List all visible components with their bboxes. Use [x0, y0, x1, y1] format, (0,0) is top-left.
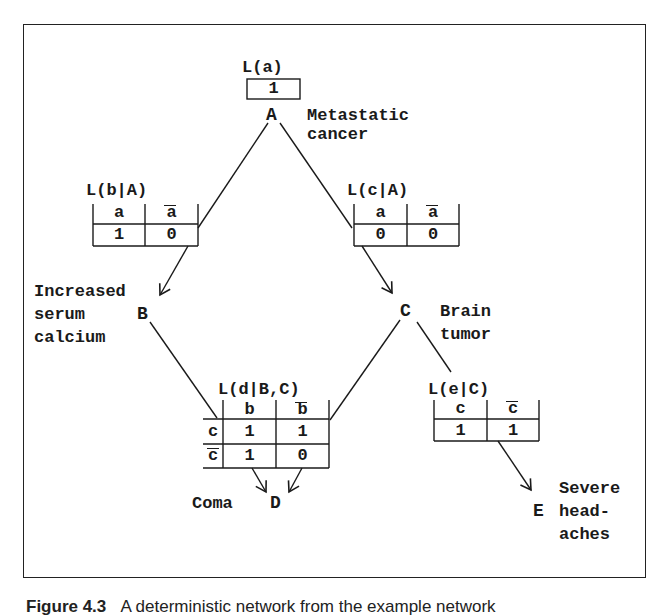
LdBC-r1-c0: 1	[223, 445, 276, 467]
LdBC-r1-c1: 0	[276, 445, 329, 467]
edge-d-arrow-left	[252, 468, 266, 492]
LdBC-row-header-c: c	[203, 421, 223, 443]
node-A-label-line2: cancer	[307, 125, 368, 144]
LeC-value-0: 1	[434, 420, 487, 442]
LdBC-title: L(d|B,C)	[218, 380, 300, 399]
edge-A-B-upper	[198, 123, 268, 228]
LdBC-negation-bar-b	[295, 402, 307, 403]
figure-caption: Figure 4.3 A deterministic network from …	[26, 597, 496, 615]
edge-A-C-arrow	[362, 246, 392, 293]
edge-e-arrow	[498, 441, 531, 490]
LcA-value-1: 0	[407, 224, 459, 246]
LcA-header-a: a	[354, 202, 407, 224]
node-E-label-line2: head-	[559, 502, 610, 521]
node-A: A	[266, 106, 277, 125]
edge-A-B-arrow	[160, 246, 188, 295]
LcA-value-0: 0	[354, 224, 407, 246]
figure-caption-text: A deterministic network from the example…	[120, 597, 495, 615]
LbA-value-1: 0	[145, 224, 198, 246]
node-A-label-line1: Metastatic	[307, 106, 409, 125]
LbA-negation-bar	[164, 205, 176, 206]
LdBC-r0-c0: 1	[223, 421, 276, 443]
LdBC-col-header-b: b	[223, 399, 276, 421]
LbA-title: L(b|A)	[86, 181, 147, 200]
LbA-value-0: 1	[93, 224, 145, 246]
node-B-label-line2: serum	[34, 305, 85, 324]
LeC-title: L(e|C)	[428, 380, 489, 399]
LdBC-negation-bar-c	[207, 448, 219, 449]
node-C-label-line1: Brain	[440, 302, 491, 321]
figure-label: Figure 4.3	[26, 597, 106, 615]
LeC-value-1: 1	[487, 420, 539, 442]
LcA-title: L(c|A)	[347, 181, 408, 200]
node-C-label-line2: tumor	[440, 325, 491, 344]
LbA-header-a: a	[93, 202, 145, 224]
LeC-header-c: c	[434, 398, 487, 420]
node-E: E	[533, 502, 544, 521]
edge-d-arrow-right	[289, 468, 302, 492]
LeC-negation-bar	[506, 401, 518, 402]
La-title: L(a)	[242, 58, 283, 77]
node-D-label: Coma	[192, 494, 233, 513]
node-E-label-line3: aches	[559, 525, 610, 544]
La-value: 1	[247, 78, 300, 100]
node-B: B	[137, 305, 148, 324]
node-B-label-line3: calcium	[34, 328, 105, 347]
edge-C-D-upper	[330, 320, 400, 420]
edge-lines	[0, 0, 667, 615]
node-D: D	[270, 494, 281, 513]
edge-B-D-upper	[150, 322, 217, 418]
LdBC-r0-c1: 1	[276, 421, 329, 443]
node-B-label-line1: Increased	[34, 282, 126, 301]
LcA-negation-bar	[426, 205, 438, 206]
node-E-label-line1: Severe	[559, 479, 620, 498]
node-C: C	[400, 302, 411, 321]
